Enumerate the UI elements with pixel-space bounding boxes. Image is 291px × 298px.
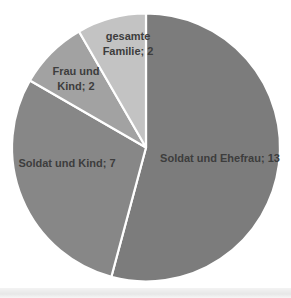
- pie-chart-figure: Soldat und Ehefrau; 13 Soldat und Kind; …: [0, 0, 291, 298]
- pie-chart: [0, 0, 291, 298]
- scan-shadow-band: [0, 288, 291, 298]
